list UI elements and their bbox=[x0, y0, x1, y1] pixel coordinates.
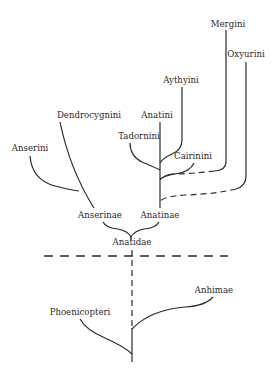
label-anhimae: Anhimae bbox=[194, 285, 233, 295]
label-anserini: Anserini bbox=[11, 143, 49, 153]
label-anatinae: Anatinae bbox=[140, 210, 180, 220]
branch-phoenicopteri bbox=[80, 319, 132, 354]
label-mergini: Mergini bbox=[211, 19, 246, 29]
label-cairinini: Cairinini bbox=[174, 151, 212, 161]
branch-anhimae bbox=[132, 297, 213, 329]
label-anatidae: Anatidae bbox=[112, 237, 152, 247]
label-anserinae: Anserinae bbox=[77, 210, 122, 220]
branch-mergini bbox=[215, 30, 226, 171]
label-dendrocygnini: Dendrocygnini bbox=[57, 110, 121, 120]
branch-oxyurini bbox=[236, 62, 246, 189]
branch-oxyurini-dashed bbox=[160, 189, 236, 201]
label-tadornini: Tadornini bbox=[118, 131, 160, 141]
label-phoenicopteri: Phoenicopteri bbox=[50, 307, 111, 317]
brace-anatidae bbox=[103, 222, 159, 237]
branch-dendrocygnini bbox=[60, 122, 94, 208]
phylogeny-diagram: Mergini Oxyurini Aythyini Anatini Tadorn… bbox=[0, 0, 280, 379]
branch-cairinini bbox=[160, 163, 194, 179]
label-anatini: Anatini bbox=[140, 110, 173, 120]
label-oxyurini: Oxyurini bbox=[227, 49, 265, 59]
branch-tadornini bbox=[130, 143, 160, 170]
label-aythyini: Aythyini bbox=[162, 75, 199, 85]
